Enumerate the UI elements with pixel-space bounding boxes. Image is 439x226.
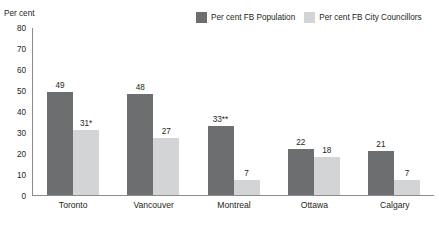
bar-group: 2218	[274, 28, 354, 195]
bar-councillors[interactable]	[234, 180, 260, 195]
bar-column[interactable]: 7	[394, 28, 420, 195]
category-label: Ottawa	[274, 200, 354, 210]
bar-value-label: 7	[405, 169, 410, 178]
legend-label-population: Per cent FB Population	[211, 12, 295, 23]
bar-value-label: 33**	[213, 115, 228, 124]
bar-chart: Per cent Per cent FB Population Per cent…	[0, 0, 439, 226]
y-axis-tick-label: 80	[17, 24, 26, 33]
bar-population[interactable]	[288, 149, 314, 195]
bar-column[interactable]: 27	[153, 28, 179, 195]
legend-entry-population: Per cent FB Population	[196, 12, 295, 23]
bar-column[interactable]: 49	[47, 28, 73, 195]
y-axis-tick-label: 30	[17, 129, 26, 138]
bar-group: 4827	[113, 28, 193, 195]
bar-value-label: 21	[376, 140, 385, 149]
bar-value-label: 27	[162, 127, 171, 136]
bar-population[interactable]	[127, 94, 153, 195]
bar-councillors[interactable]	[73, 130, 99, 195]
y-axis-title: Per cent	[4, 9, 35, 18]
category-label: Calgary	[355, 200, 435, 210]
bar-value-label: 48	[136, 83, 145, 92]
bar-group: 4931*	[33, 28, 113, 195]
bar-value-label: 49	[56, 81, 65, 90]
bar-group: 217	[354, 28, 434, 195]
bar-councillors[interactable]	[314, 157, 340, 195]
bar-group: 33**7	[193, 28, 273, 195]
bar-population[interactable]	[47, 92, 73, 195]
bar-column[interactable]: 18	[314, 28, 340, 195]
bar-value-label: 22	[296, 138, 305, 147]
bar-value-label: 31*	[80, 119, 92, 128]
y-axis-tick-label: 40	[17, 108, 26, 117]
category-label: Vancouver	[113, 200, 193, 210]
bar-column[interactable]: 33**	[208, 28, 234, 195]
bar-population[interactable]	[208, 126, 234, 195]
bar-councillors[interactable]	[394, 180, 420, 195]
bar-column[interactable]: 21	[368, 28, 394, 195]
legend-entry-councillors: Per cent FB City Councillors	[304, 12, 421, 23]
y-axis-tick-label: 70	[17, 45, 26, 54]
legend-swatch-light-icon	[304, 12, 315, 23]
bar-groups: 4931*482733**72218217	[33, 28, 434, 195]
y-axis-tick-label: 50	[17, 87, 26, 96]
legend-swatch-dark-icon	[196, 12, 207, 23]
chart-legend: Per cent FB Population Per cent FB City …	[196, 12, 422, 23]
bar-value-label: 7	[244, 169, 249, 178]
bar-column[interactable]: 7	[234, 28, 260, 195]
y-axis-tick-label: 60	[17, 66, 26, 75]
bar-population[interactable]	[368, 151, 394, 195]
plot-area: 80706050403020100 4931*482733**72218217	[32, 28, 434, 196]
y-axis-tick-label: 0	[21, 192, 26, 201]
legend-label-councillors: Per cent FB City Councillors	[319, 12, 421, 23]
y-axis-tick-label: 10	[17, 171, 26, 180]
x-axis-line	[32, 195, 434, 196]
y-axis-tick-label: 20	[17, 150, 26, 159]
bar-value-label: 18	[322, 146, 331, 155]
bar-column[interactable]: 22	[288, 28, 314, 195]
x-axis-category-labels: TorontoVancouverMontrealOttawaCalgary	[33, 200, 435, 210]
bar-councillors[interactable]	[153, 138, 179, 195]
bar-column[interactable]: 48	[127, 28, 153, 195]
category-label: Montreal	[194, 200, 274, 210]
category-label: Toronto	[33, 200, 113, 210]
bar-column[interactable]: 31*	[73, 28, 99, 195]
